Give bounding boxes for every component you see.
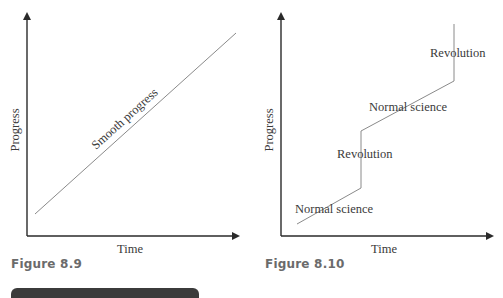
label-normal-science-2: Normal science — [369, 100, 448, 114]
label-revolution-2: Revolution — [430, 46, 486, 60]
figure-caption-8-9: Figure 8.9 — [11, 257, 82, 271]
line-label: Smooth progress — [89, 85, 161, 152]
y-axis-label: Progress — [262, 108, 276, 151]
smooth-progress-line — [35, 33, 236, 214]
x-axis-label: Time — [371, 242, 397, 256]
label-normal-science-1: Normal science — [295, 202, 374, 216]
figure-caption-8-10: Figure 8.10 — [265, 257, 345, 271]
label-revolution-1: Revolution — [337, 147, 393, 161]
dark-banner — [11, 288, 199, 298]
figure-8-9: Smooth progress Progress Time — [8, 14, 238, 256]
y-axis-label: Progress — [8, 108, 22, 151]
figure-8-10: Normal science Revolution Normal science… — [262, 14, 492, 256]
x-axis-label: Time — [117, 242, 143, 256]
